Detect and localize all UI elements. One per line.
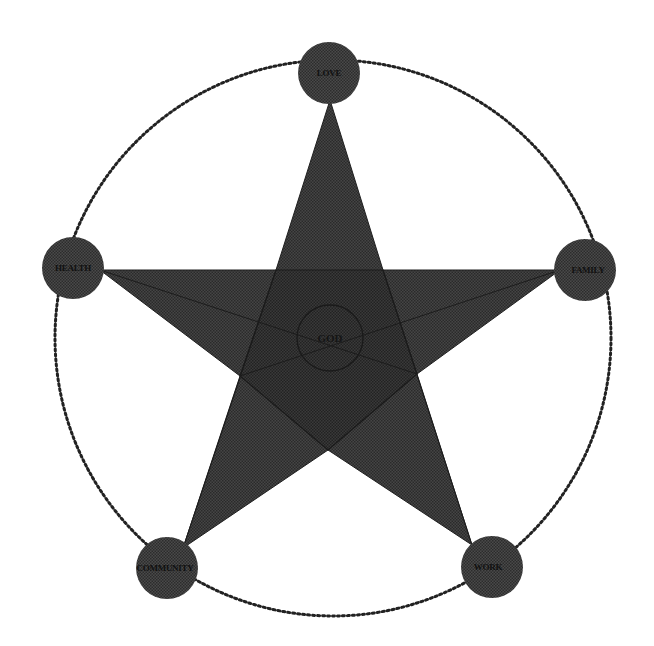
node-health: HEALTH xyxy=(42,237,104,299)
star-diagram: GOD LOVE FAMILY WORK COMMUNITY HEALTH xyxy=(0,0,654,646)
node-work: WORK xyxy=(461,536,523,598)
node-label-love: LOVE xyxy=(317,68,342,78)
node-label-work: WORK xyxy=(474,562,503,572)
center-label: GOD xyxy=(317,332,342,344)
node-love: LOVE xyxy=(298,42,360,104)
node-label-community: COMMUNITY xyxy=(137,563,195,573)
node-label-family: FAMILY xyxy=(571,265,605,275)
node-community: COMMUNITY xyxy=(136,537,198,599)
node-label-health: HEALTH xyxy=(55,263,91,273)
node-family: FAMILY xyxy=(554,239,616,301)
